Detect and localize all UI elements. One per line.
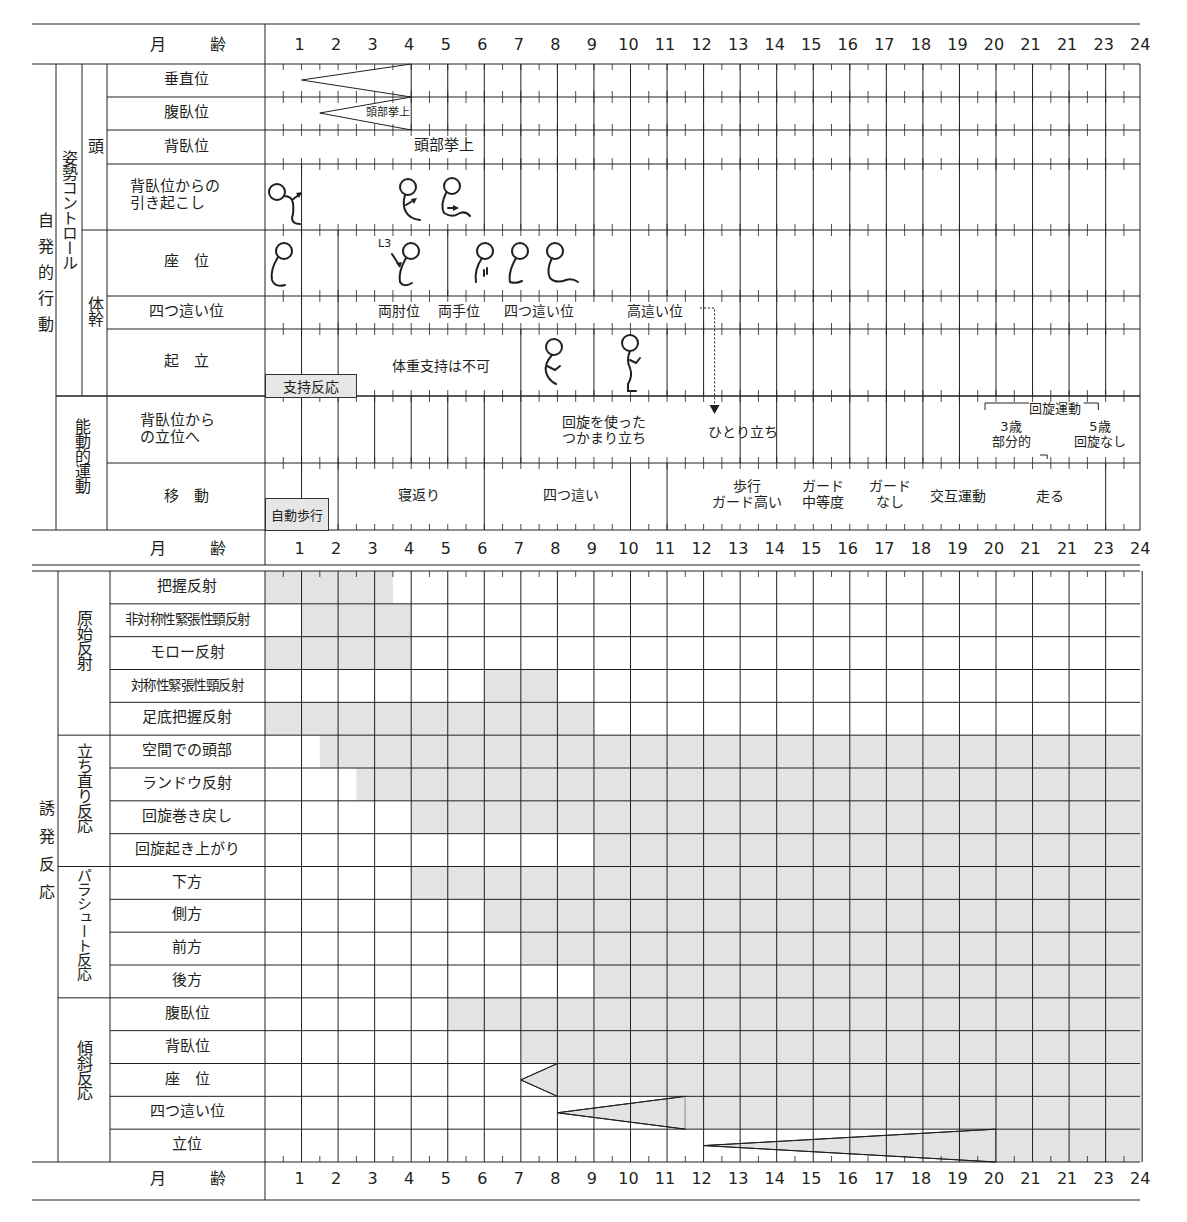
month-tick-label: 1 [294,540,304,558]
month-tick-label: 19 [947,1170,967,1188]
month-tick-label: 20 [984,36,1004,54]
month-tick-label: 13 [728,540,748,558]
reflex-row-label: 座 位 [165,1071,210,1088]
annotation-hands: 両手位 [438,303,480,319]
reflex-row-label: ランドウ反射 [142,775,232,792]
group-label-tilting: 傾斜反応 [74,1040,92,1100]
group-label-active-movement: 能動的運動 [72,418,90,493]
month-tick-label: 12 [691,1170,711,1188]
annotation-medium-guard: ガード 中等度 [802,478,844,510]
row-label-standing: 起 立 [164,353,209,370]
month-tick-label: 10 [618,540,638,558]
annotation-3yr: 3歳 部分的 [992,420,1031,450]
annotation-rotation: 回旋運動 [1029,402,1081,417]
annotation-head-lift-prone: 頭部挙上 [366,107,410,120]
month-tick-label: 14 [765,36,785,54]
group-label-primitive: 原始反射 [74,610,92,670]
annotation-quadruped: 四つ這い位 [504,303,574,319]
row-label-quadruped: 四つ這い位 [149,303,224,320]
group-label-posture-control: 姿勢コントロール [59,150,77,270]
month-tick-label: 23 [1093,540,1113,558]
month-tick-label: 11 [655,36,675,54]
month-tick-label: 21 [1057,540,1077,558]
month-tick-label: 21 [1020,1170,1040,1188]
month-tick-label: 21 [1020,540,1040,558]
section-label-evoked: 誘発反応 [36,800,54,912]
month-tick-label: 1 [294,1170,304,1188]
month-tick-label: 6 [477,540,487,558]
month-tick-label: 13 [728,1170,748,1188]
month-tick-label: 16 [838,540,858,558]
row-label-pull-to-sit: 背臥位からの 引き起こし [130,178,220,213]
reflex-row-label: 背臥位 [165,1038,210,1055]
annotation-pull-to-stand: 回旋を使った つかまり立ち [562,414,646,446]
annotation-head-lift-supine: 頭部挙上 [414,137,474,154]
month-tick-label: 5 [441,1170,451,1188]
month-tick-label: 21 [1020,36,1040,54]
month-tick-label: 17 [874,36,894,54]
month-tick-label: 14 [765,1170,785,1188]
month-tick-label: 21 [1057,36,1077,54]
month-tick-label: 20 [984,540,1004,558]
reflex-row-label: 回旋起き上がり [135,841,240,858]
reflex-row-label: 足底把握反射 [142,709,232,726]
reflex-row-label: 立位 [172,1136,202,1153]
month-tick-label: 18 [911,1170,931,1188]
annotation-walk-high-guard: 歩行 ガード高い [712,478,782,510]
month-tick-label: 6 [477,1170,487,1188]
month-tick-label: 13 [728,36,748,54]
annotation-rolling: 寝返り [398,487,440,503]
annotation-reciprocal: 交互運動 [930,488,986,504]
development-chart: 月 齢 月 齢 月 齢 1234567891011121314151617181… [0,0,1187,1222]
row-label-supine-to-stand: 背臥位から の立位へ [140,412,215,447]
reflex-row-label: 対称性緊張性頸反射 [131,678,244,694]
month-tick-label: 5 [441,36,451,54]
reflex-row-label: 四つ這い位 [150,1103,225,1120]
month-tick-label: 11 [655,1170,675,1188]
month-tick-label: 4 [404,36,414,54]
row-label-supine: 背臥位 [164,138,209,155]
month-tick-label: 19 [947,36,967,54]
annotation-stand-alone: ひとり立ち [708,424,778,440]
month-tick-label: 10 [618,36,638,54]
row-label-prone: 腹臥位 [164,104,209,121]
row-label-locomotion: 移 動 [164,488,209,505]
month-tick-label: 15 [801,1170,821,1188]
month-tick-label: 8 [550,36,560,54]
month-tick-label: 5 [441,540,451,558]
month-tick-label: 19 [947,540,967,558]
month-tick-label: 15 [801,36,821,54]
annotation-no-weight-bearing: 体重支持は不可 [392,358,490,374]
month-tick-label: 7 [514,36,524,54]
month-tick-label: 6 [477,36,487,54]
month-tick-label: 16 [838,1170,858,1188]
annotation-crawling: 四つ這い [543,487,599,503]
annotation-5yr: 5歳 回旋なし [1074,420,1126,450]
month-tick-label: 10 [618,1170,638,1188]
month-tick-label: 23 [1093,1170,1113,1188]
age-header-top: 月 齢 [150,36,240,54]
month-tick-label: 24 [1130,540,1150,558]
group-label-trunk: 体幹 [85,296,103,326]
month-tick-label: 24 [1130,1170,1150,1188]
age-header-middle: 月 齢 [150,540,240,558]
reflex-row-label: 前方 [172,939,202,956]
section-label-voluntary: 自発的行動 [35,212,53,342]
group-label-head: 頭 [85,138,103,153]
month-tick-label: 8 [550,540,560,558]
month-tick-label: 8 [550,1170,560,1188]
month-tick-label: 3 [368,540,378,558]
automatic-walking-box: 自動歩行 [265,498,329,531]
annotation-running: 走る [1036,488,1064,504]
month-tick-label: 2 [331,540,341,558]
reflex-row-label: 腹臥位 [165,1005,210,1022]
month-tick-label: 4 [404,540,414,558]
month-tick-label: 21 [1057,1170,1077,1188]
month-tick-label: 3 [368,1170,378,1188]
month-tick-label: 11 [655,540,675,558]
month-tick-label: 23 [1093,36,1113,54]
group-label-righting: 立ち直り反応 [74,743,92,833]
month-tick-label: 12 [691,540,711,558]
month-tick-label: 12 [691,36,711,54]
reflex-row-label: 空間での頭部 [142,742,232,759]
